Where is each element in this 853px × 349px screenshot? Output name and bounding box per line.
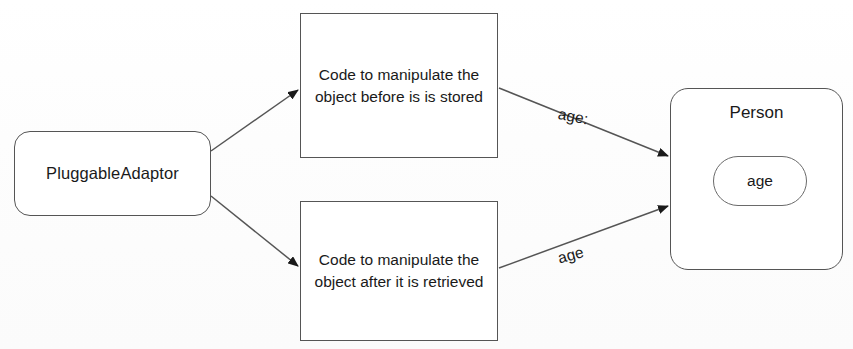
node-person-attribute-label: age — [747, 172, 773, 190]
node-pluggable-adaptor-label: PluggableAdaptor — [46, 164, 179, 184]
node-code-after-label: Code to manipulate the object after it i… — [301, 249, 497, 293]
node-person-title: Person — [671, 103, 842, 123]
edge-adaptor-to-after — [211, 196, 298, 266]
node-pluggable-adaptor[interactable]: PluggableAdaptor — [14, 131, 211, 216]
diagram-canvas: PluggableAdaptor Code to manipulate the … — [0, 0, 853, 349]
node-person-attribute-age[interactable]: age — [713, 156, 807, 206]
node-code-before[interactable]: Code to manipulate the object before is … — [300, 13, 498, 158]
edge-adaptor-to-before — [211, 90, 298, 151]
node-code-before-label: Code to manipulate the object before is … — [301, 64, 497, 108]
node-person[interactable]: Person age — [670, 88, 843, 270]
node-code-after[interactable]: Code to manipulate the object after it i… — [300, 201, 498, 341]
